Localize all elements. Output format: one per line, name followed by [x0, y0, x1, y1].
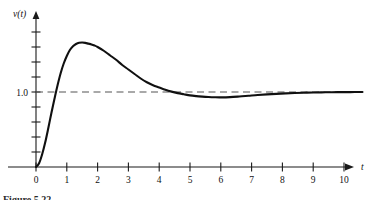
x-tick-label-3: 3 — [126, 175, 131, 185]
x-axis-arrow-icon — [345, 164, 354, 171]
y-axis-arrow-icon — [33, 11, 40, 19]
x-tick-label-1: 1 — [64, 175, 69, 185]
figure-caption: Figure 5.22 — [3, 194, 51, 200]
x-tick-label-4: 4 — [157, 175, 162, 185]
x-tick-label-5: 5 — [188, 175, 193, 185]
plot-area: 1.0 0 1 2 3 4 5 6 7 8 9 10 v(t) t — [0, 0, 376, 200]
x-tick-label-9: 9 — [311, 175, 316, 185]
figure-container: 1.0 0 1 2 3 4 5 6 7 8 9 10 v(t) t Figure… — [0, 0, 376, 200]
x-tick-label-0: 0 — [34, 175, 39, 185]
y-tick-label-1: 1.0 — [16, 88, 28, 98]
x-tick-label-6: 6 — [218, 175, 223, 185]
x-tick-label-2: 2 — [95, 175, 100, 185]
y-axis-label: v(t) — [13, 9, 26, 20]
x-axis-label: t — [361, 162, 364, 172]
response-curve — [36, 42, 362, 167]
x-tick-label-8: 8 — [280, 175, 285, 185]
x-tick-label-10: 10 — [339, 175, 349, 185]
x-tick-label-7: 7 — [249, 175, 254, 185]
